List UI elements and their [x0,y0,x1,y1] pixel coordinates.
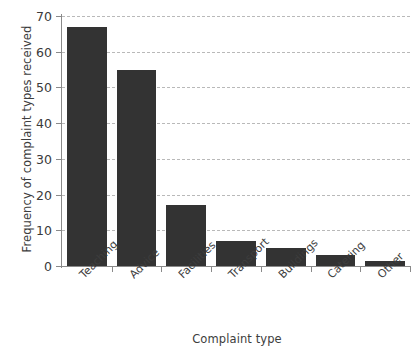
y-tick-label: 60 [12,44,52,59]
x-tick-mark [410,267,411,272]
y-tick-label: 50 [12,80,52,95]
y-tick-label: 10 [12,223,52,238]
y-tick-label: 20 [12,187,52,202]
y-tick-mark [56,123,62,124]
y-tick-label: 70 [12,9,52,24]
x-tick-mark [112,267,113,272]
x-tick-mark [211,267,212,272]
y-tick-mark [56,87,62,88]
y-tick-label: 40 [12,116,52,131]
y-tick-mark [56,195,62,196]
y-tick-mark [56,16,62,17]
x-tick-mark [161,267,162,272]
x-tick-mark [360,267,361,272]
bar [117,70,157,266]
y-tick-label: 30 [12,151,52,166]
bars-layer [62,16,410,266]
y-tick-label: 0 [12,259,52,274]
y-tick-mark [56,230,62,231]
y-tick-mark [56,266,62,267]
y-tick-mark [56,52,62,53]
x-tick-mark [261,267,262,272]
x-axis-title: Complaint type [62,332,412,346]
bar [67,27,107,266]
x-tick-mark [311,267,312,272]
bar-chart: Frequency of complaint types received 01… [0,0,419,357]
y-tick-mark [56,159,62,160]
